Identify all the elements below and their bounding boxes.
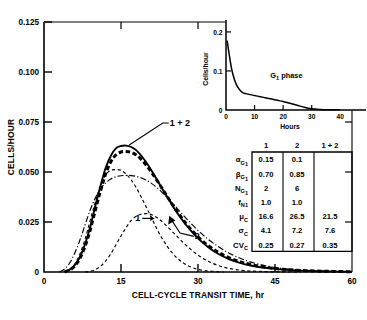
table-cell: 7.2	[292, 226, 303, 235]
inset-y-tick-label: 0.2	[213, 29, 222, 36]
curve-label-2: 2	[195, 231, 200, 241]
x-axis-title: CELL-CYCLE TRANSIT TIME, hr	[132, 290, 265, 300]
arrow-head-2	[168, 216, 175, 225]
table-cell: 0.27	[290, 241, 305, 250]
table-row-label: CVC	[233, 241, 248, 251]
table-cell: 4.1	[261, 226, 272, 235]
table-row-label: σC	[239, 226, 248, 236]
x-tick-label: 0	[42, 277, 47, 286]
table-cell: 2	[264, 184, 268, 193]
y-tick-label: 0.050	[19, 168, 40, 177]
table-row-label: βG1	[236, 170, 248, 182]
x-tick-label: 30	[193, 277, 203, 286]
inset-x-tick-label: 0	[224, 113, 228, 120]
cell-cycle-transit-time-figure: 00.0250.0500.0750.1000.125015304560CELL-…	[0, 0, 367, 320]
inset-y-axis-title: Cells/hour	[202, 52, 209, 86]
y-tick-label: 0.075	[19, 118, 40, 127]
table-row-label: NG1	[235, 184, 248, 196]
y-tick-label: 0	[34, 268, 39, 277]
inset-x-axis-title: Hours	[280, 123, 300, 130]
g1-phase-annotation: G1 phase	[270, 71, 302, 81]
table-cell: 7.6	[325, 226, 336, 235]
table-cell: 16.6	[259, 212, 274, 221]
table-cell: 0.85	[290, 170, 306, 179]
table-cell: 0.15	[259, 155, 275, 164]
table-row-label: μC	[239, 212, 248, 222]
x-tick-label: 60	[347, 277, 357, 286]
arrow-head-1	[150, 216, 155, 221]
table-cell: 6	[295, 184, 299, 193]
inset-x-tick-label: 30	[308, 113, 316, 120]
inset-x-tick-label: 20	[279, 113, 287, 120]
y-tick-label: 0.025	[19, 218, 40, 227]
y-axis-title: CELLS/HOUR	[6, 119, 16, 175]
table-column-header: 2	[295, 141, 299, 150]
inset-x-tick-label: 10	[251, 113, 259, 120]
table-cell: 0.1	[292, 155, 303, 164]
table-cell: 1.0	[261, 198, 272, 207]
inset-y-tick-label: 0.1	[213, 68, 222, 75]
table-cell: 21.5	[323, 212, 339, 221]
table-row-label: fN1	[238, 198, 248, 208]
table-row-label: αG1	[236, 155, 248, 167]
curve-label-1plus2: 1 + 2	[170, 118, 190, 128]
x-tick-label: 45	[270, 277, 280, 286]
series-curve-1	[65, 152, 352, 272]
curve-label-1: 1	[135, 213, 140, 223]
x-tick-label: 15	[116, 277, 126, 286]
figure-container: 00.0250.0500.0750.1000.125015304560CELL-…	[0, 0, 367, 320]
inset-background	[226, 20, 367, 111]
table-cell: 26.5	[290, 212, 306, 221]
series-curve-2	[59, 175, 352, 272]
inset-y-tick-label: 0	[219, 107, 223, 114]
leader-line-1plus2	[129, 123, 169, 145]
table-cell: 0.70	[259, 170, 274, 179]
table-cell: 1.0	[292, 198, 303, 207]
y-tick-label: 0.100	[19, 68, 40, 77]
table-column-header: 1 + 2	[321, 141, 338, 150]
y-tick-label: 0.125	[19, 18, 40, 27]
inset-x-tick-label: 40	[337, 113, 345, 120]
table-cell: 0.25	[259, 241, 275, 250]
series-curve-0	[65, 146, 352, 272]
table-cell: 0.35	[323, 241, 339, 250]
table-column-header: 1	[264, 141, 269, 150]
